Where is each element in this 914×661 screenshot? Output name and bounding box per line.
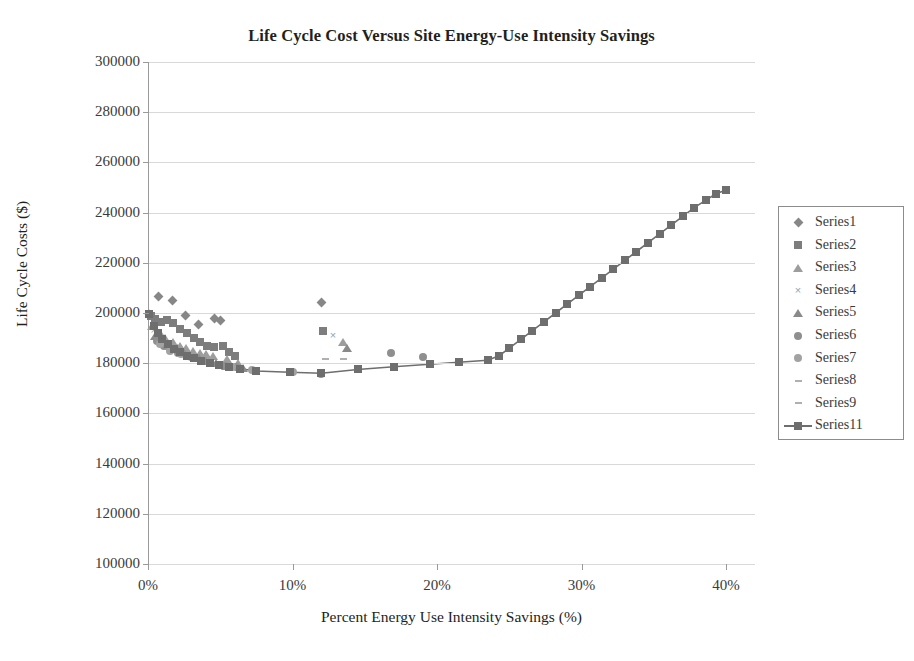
y-gridline [148, 464, 755, 465]
legend-marker-icon [787, 347, 809, 370]
data-point-series11 [505, 344, 513, 352]
legend-item-series5[interactable]: Series5 [779, 301, 903, 324]
legend-label: Series3 [815, 259, 856, 275]
legend-item-series2[interactable]: Series2 [779, 234, 903, 257]
x-tick-mark [293, 564, 294, 570]
data-point-series11 [225, 363, 233, 371]
data-point-series6 [387, 349, 395, 357]
data-point-series11 [197, 357, 205, 365]
y-tick-label: 260000 [48, 154, 140, 169]
data-point-series11 [517, 335, 525, 343]
y-gridline [148, 213, 755, 214]
data-point-series11 [390, 363, 398, 371]
x-tick-mark [582, 564, 583, 570]
legend-item-series6[interactable]: Series6 [779, 324, 903, 347]
y-gridline [148, 263, 755, 264]
legend-item-series3[interactable]: Series3 [779, 256, 903, 279]
data-point-series2 [210, 343, 218, 351]
y-tick-mark [143, 213, 149, 214]
legend-symbol [794, 332, 802, 340]
legend-marker-icon [787, 234, 809, 257]
legend-item-series9[interactable]: Series9 [779, 392, 903, 415]
legend-symbol [794, 422, 802, 430]
legend-label: Series7 [815, 350, 856, 366]
y-gridline [148, 564, 755, 565]
data-point-series5 [342, 344, 352, 352]
data-point-series11 [586, 283, 594, 291]
x-tick-label: 30% [547, 578, 617, 593]
data-point-series8 [322, 358, 329, 360]
legend-item-series1[interactable]: Series1 [779, 211, 903, 234]
y-axis-title: Life Cycle Costs ($) [13, 64, 31, 464]
y-gridline [148, 112, 755, 113]
legend-marker-icon [787, 392, 809, 415]
chart-title: Life Cycle Cost Versus Site Energy-Use I… [148, 26, 755, 46]
y-tick-mark [143, 413, 149, 414]
y-tick-label: 240000 [48, 205, 140, 220]
legend-label: Series11 [815, 417, 863, 433]
data-point-series11 [145, 310, 153, 318]
data-point-series11 [722, 186, 730, 194]
data-point-series11 [679, 212, 687, 220]
y-tick-mark [143, 514, 149, 515]
legend-item-series8[interactable]: Series8 [779, 369, 903, 392]
data-point-series11 [690, 204, 698, 212]
legend-symbol [793, 218, 803, 228]
legend-marker-icon [787, 256, 809, 279]
y-tick-mark [143, 112, 149, 113]
data-point-series11 [702, 196, 710, 204]
data-point-series11 [528, 327, 536, 335]
data-point-series11 [455, 358, 463, 366]
data-point-series2 [319, 327, 327, 335]
data-point-series11 [495, 352, 503, 360]
legend-label: Series5 [815, 304, 856, 320]
x-axis-title: Percent Energy Use Intensity Savings (%) [148, 608, 755, 626]
y-tick-label: 100000 [48, 556, 140, 571]
legend-item-series7[interactable]: Series7 [779, 347, 903, 370]
y-tick-mark [143, 313, 149, 314]
legend-symbol [795, 380, 802, 382]
data-point-series11 [632, 248, 640, 256]
y-gridline [148, 514, 755, 515]
data-point-series11 [563, 300, 571, 308]
data-point-series11 [317, 369, 325, 377]
legend-marker-icon [787, 414, 809, 437]
data-point-series11 [712, 190, 720, 198]
y-tick-label: 160000 [48, 405, 140, 420]
legend-symbol [794, 241, 802, 249]
data-point-series11 [206, 359, 214, 367]
legend-symbol [793, 264, 803, 272]
legend-symbol [793, 309, 803, 317]
y-tick-label: 300000 [48, 54, 140, 69]
data-point-series11 [656, 230, 664, 238]
x-tick-mark [148, 564, 149, 570]
y-tick-label: 140000 [48, 456, 140, 471]
legend-item-series4[interactable]: ×Series4 [779, 279, 903, 302]
legend-label: Series8 [815, 372, 856, 388]
y-gridline [148, 162, 755, 163]
y-tick-label: 220000 [48, 255, 140, 270]
y-tick-mark [143, 263, 149, 264]
legend-marker-icon [787, 211, 809, 234]
legend-symbol [794, 354, 802, 362]
y-gridline [148, 62, 755, 63]
data-point-series11 [621, 256, 629, 264]
y-tick-mark [143, 363, 149, 364]
legend-symbol [795, 402, 802, 404]
x-tick-mark [437, 564, 438, 570]
legend-symbol: × [794, 286, 803, 295]
x-tick-label: 40% [691, 578, 761, 593]
legend-item-series11[interactable]: Series11 [779, 414, 903, 437]
legend-marker-icon: × [787, 279, 809, 302]
data-point-series9 [340, 358, 347, 360]
legend-label: Series1 [815, 214, 856, 230]
y-tick-label: 180000 [48, 355, 140, 370]
y-tick-label: 120000 [48, 506, 140, 521]
data-point-series11 [354, 365, 362, 373]
data-point-series11 [552, 309, 560, 317]
data-point-series11 [609, 265, 617, 273]
legend-label: Series6 [815, 327, 856, 343]
data-point-series11 [598, 274, 606, 282]
chart-container: Life Cycle Cost Versus Site Energy-Use I… [0, 0, 914, 661]
y-tick-mark [143, 162, 149, 163]
